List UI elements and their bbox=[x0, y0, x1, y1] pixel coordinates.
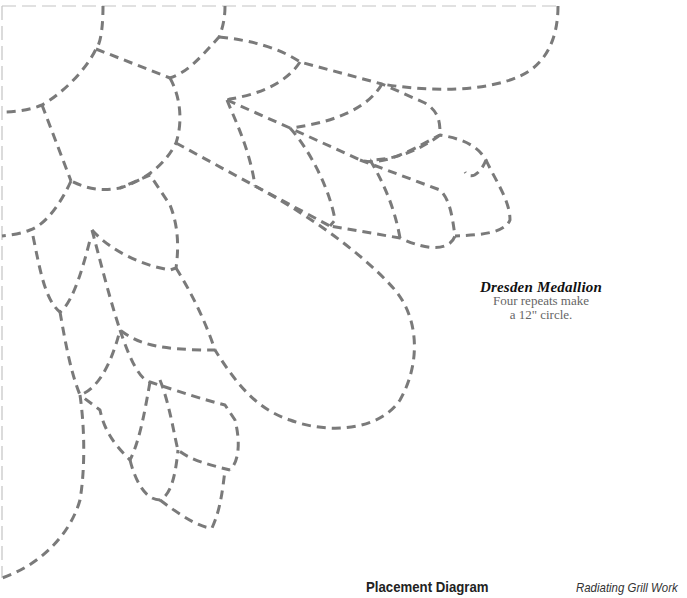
large-outer-arc bbox=[382, 6, 558, 89]
lower-petal-c bbox=[176, 268, 215, 350]
center-ring-left bbox=[42, 105, 71, 181]
outer-left-scallop bbox=[2, 181, 71, 236]
pattern-description-line-1: Four repeats make bbox=[441, 294, 641, 308]
large-teardrop bbox=[215, 186, 414, 428]
lower-petal-h bbox=[160, 380, 230, 470]
petal-2-top bbox=[227, 100, 486, 176]
placement-diagram-label: Placement Diagram bbox=[366, 578, 489, 595]
petal-1-bottom bbox=[227, 62, 300, 100]
lower-petal-k bbox=[2, 395, 84, 578]
center-ring-right bbox=[71, 78, 180, 190]
pattern-caption: Dresden Medallion Four repeats make a 12… bbox=[441, 280, 641, 322]
lower-petal-b bbox=[92, 230, 215, 350]
diagonal-4 bbox=[370, 160, 400, 238]
pattern-description-line-2: a 12" circle. bbox=[441, 308, 641, 322]
petal-3-top bbox=[370, 135, 440, 160]
pattern-title: Dresden Medallion bbox=[441, 280, 641, 294]
lower-petal-g bbox=[80, 382, 150, 460]
lower-petal-f bbox=[120, 330, 238, 470]
petal-2-bottom bbox=[290, 84, 382, 128]
lower-petal-d bbox=[33, 236, 90, 312]
inner-arc bbox=[2, 6, 103, 112]
lower-petal-i bbox=[130, 450, 178, 500]
diagonal-1 bbox=[176, 143, 330, 226]
petal-3-right bbox=[455, 160, 510, 236]
top-right-arc bbox=[170, 6, 225, 78]
center-ring-top bbox=[96, 49, 170, 78]
lower-petal-e bbox=[60, 312, 120, 395]
pattern-name-label: Radiating Grill Work bbox=[576, 580, 678, 595]
lower-petal-j bbox=[160, 470, 225, 528]
